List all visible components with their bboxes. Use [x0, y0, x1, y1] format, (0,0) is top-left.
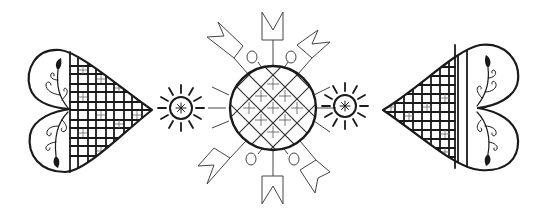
right-heart	[375, 30, 518, 185]
left-heart-vine-top	[46, 58, 68, 108]
illustration-canvas	[0, 0, 551, 215]
left-heart	[29, 40, 160, 180]
asterisk-icon	[176, 103, 186, 113]
right-heart-vine-top	[477, 55, 496, 106]
right-heart-vine-bottom	[477, 112, 497, 166]
right-small-sun	[322, 83, 368, 129]
left-small-sun	[158, 85, 204, 131]
asterisk-icon	[340, 101, 350, 111]
central-sun	[168, 12, 378, 215]
left-heart-vine-bottom	[46, 112, 68, 168]
